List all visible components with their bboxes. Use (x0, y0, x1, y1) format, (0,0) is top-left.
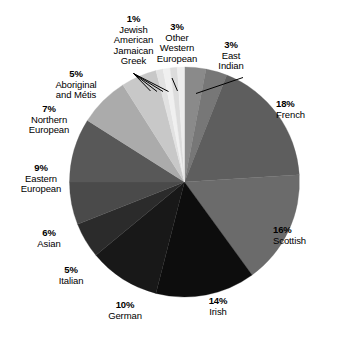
label-french-percent: 18% (276, 99, 336, 110)
label-french-line1: French (276, 110, 336, 121)
label-other-western-european: 3% Other Western European (147, 22, 207, 64)
label-other-western-european-line3: European (147, 54, 207, 65)
label-italian: 5% Italian (47, 265, 95, 286)
label-italian-line1: Italian (47, 276, 95, 287)
label-irish-line1: Irish (193, 307, 243, 318)
label-asian: 6% Asian (26, 228, 72, 249)
label-eastern-european: 9% Eastern European (8, 163, 74, 195)
label-northern-european-percent: 7% (15, 104, 83, 115)
label-italian-percent: 5% (47, 265, 95, 276)
label-asian-percent: 6% (26, 228, 72, 239)
label-aboriginal-and-metis-line2: and Métis (38, 90, 114, 101)
label-german-percent: 10% (97, 300, 153, 311)
label-irish: 14% Irish (193, 296, 243, 317)
label-scottish-percent: 16% (273, 225, 337, 236)
pie-slices-group (70, 67, 300, 297)
label-german-line1: German (97, 311, 153, 322)
label-aboriginal-and-metis-percent: 5% (38, 69, 114, 80)
label-scottish-line1: Scottish (273, 236, 337, 247)
label-east-indian-percent: 3% (208, 40, 254, 51)
label-aboriginal-and-metis: 5% Aboriginal and Métis (38, 69, 114, 101)
label-eastern-european-line2: European (8, 184, 74, 195)
label-northern-european-line2: European (15, 125, 83, 136)
label-asian-line1: Asian (26, 239, 72, 250)
label-irish-percent: 14% (193, 296, 243, 307)
label-east-indian-line2: Indian (208, 61, 254, 72)
label-french: 18% French (276, 99, 336, 120)
label-other-western-european-percent: 3% (147, 22, 207, 33)
label-east-indian: 3% East Indian (208, 40, 254, 72)
label-scottish: 16% Scottish (273, 225, 337, 246)
label-northern-european: 7% Northern European (15, 104, 83, 136)
label-german: 10% German (97, 300, 153, 321)
pie-chart: 1% Jewish American Jamaican Greek 3% Oth… (0, 0, 339, 338)
label-eastern-european-percent: 9% (8, 163, 74, 174)
